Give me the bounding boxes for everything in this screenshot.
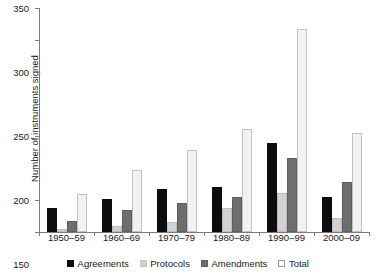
bar-group-bars <box>204 8 259 232</box>
bar-group-bars <box>314 8 369 232</box>
bar-total <box>352 133 362 232</box>
bar-group-bars <box>259 8 314 232</box>
bar-group <box>39 8 94 232</box>
y-tick-label: 350 <box>13 3 29 14</box>
bar-group <box>204 8 259 232</box>
bar-protocols <box>222 208 232 232</box>
legend-label: Total <box>289 258 309 269</box>
bar-group <box>94 8 149 232</box>
bar-total <box>242 129 252 232</box>
legend-item-amendments[interactable]: Amendments <box>201 258 267 269</box>
bar-amendments <box>67 221 77 232</box>
x-axis-label: 1980–89 <box>204 232 259 243</box>
bar-protocols <box>167 222 177 232</box>
legend-swatch-agreements-icon <box>67 260 74 267</box>
legend-label: Agreements <box>78 258 129 269</box>
bar-protocols <box>332 218 342 232</box>
bar-total <box>297 29 307 232</box>
bar-amendments <box>342 182 352 232</box>
legend-swatch-protocols-icon <box>140 260 147 267</box>
legend-label: Protocols <box>150 258 190 269</box>
bar-amendments <box>232 197 242 232</box>
bar-amendments <box>122 210 132 232</box>
bar-total <box>132 170 142 232</box>
bar-group <box>259 8 314 232</box>
bar-group-bars <box>149 8 204 232</box>
bar-agreements <box>47 208 57 232</box>
bar-agreements <box>267 143 277 232</box>
x-axis-label: 1960–69 <box>94 232 149 243</box>
legend-swatch-amendments-icon <box>201 260 208 267</box>
bar-group <box>149 8 204 232</box>
bar-agreements <box>322 197 332 232</box>
bar-agreements <box>157 189 167 232</box>
x-axis-label: 1970–79 <box>149 232 204 243</box>
bar-total <box>187 150 197 232</box>
legend-label: Amendments <box>211 258 267 269</box>
bar-group <box>314 8 369 232</box>
x-axis-label: 1950–59 <box>39 232 94 243</box>
legend-item-agreements[interactable]: Agreements <box>67 258 129 269</box>
legend-swatch-total-icon <box>278 260 285 267</box>
x-axis-label: 2000–09 <box>314 232 369 243</box>
bar-total <box>77 194 87 232</box>
legend-item-protocols[interactable]: Protocols <box>140 258 190 269</box>
x-tick <box>369 232 370 236</box>
legend-item-total[interactable]: Total <box>278 258 309 269</box>
bar-amendments <box>287 158 297 232</box>
bar-protocols <box>277 193 287 232</box>
y-tick-label: 200 <box>13 195 29 206</box>
y-tick-label: 250 <box>13 131 29 142</box>
x-axis-label: 1990–99 <box>259 232 314 243</box>
bar-group-bars <box>94 8 149 232</box>
bar-amendments <box>177 203 187 232</box>
y-axis-title: Number of instruments signed <box>29 24 40 214</box>
bar-group-bars <box>39 8 94 232</box>
bar-agreements <box>102 199 112 232</box>
y-tick-label: 300 <box>13 67 29 78</box>
chart-legend: AgreementsProtocolsAmendmentsTotal <box>0 258 376 269</box>
plot-area: 050100150200250300350 <box>39 8 369 232</box>
bar-chart: Number of instruments signed 05010015020… <box>0 0 376 279</box>
bar-agreements <box>212 187 222 232</box>
